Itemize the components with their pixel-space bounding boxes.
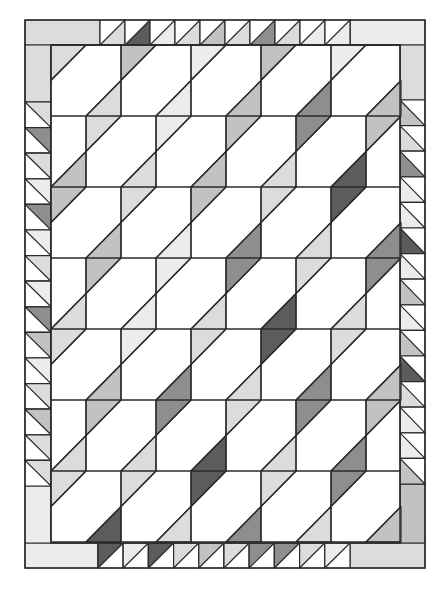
bottom-right-border-band	[350, 543, 425, 568]
quilt-diagram	[0, 0, 448, 596]
right-bottom-border-band	[400, 484, 425, 543]
top-right-border-band	[350, 20, 425, 45]
left-top-border-band	[25, 45, 51, 102]
left-bottom-border-band	[25, 486, 51, 543]
right-top-border-band	[400, 45, 425, 100]
bottom-left-border-band	[25, 543, 98, 568]
top-left-border-band	[25, 20, 100, 45]
